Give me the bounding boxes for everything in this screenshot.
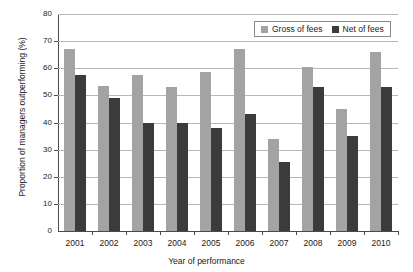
plot-area bbox=[58, 14, 398, 231]
bar-net-of-fees-2007 bbox=[279, 162, 290, 231]
chart-legend: Gross of feesNet of fees bbox=[254, 21, 391, 37]
y-axis-tick-label: 60 bbox=[30, 64, 52, 72]
legend-swatch-icon bbox=[332, 26, 339, 33]
y-axis-tick-label: 40 bbox=[30, 119, 52, 127]
x-axis-tick-mark bbox=[92, 231, 93, 235]
bar-net-of-fees-2010 bbox=[381, 87, 392, 231]
y-axis-tick-mark bbox=[54, 204, 58, 205]
y-axis-tick-label: 70 bbox=[30, 37, 52, 45]
x-axis-tick-mark bbox=[296, 231, 297, 235]
gridline bbox=[58, 95, 398, 96]
x-axis-tick-label: 2001 bbox=[58, 238, 92, 248]
x-axis-tick-mark bbox=[228, 231, 229, 235]
x-axis-tick-mark bbox=[160, 231, 161, 235]
x-axis-tick-mark bbox=[330, 231, 331, 235]
legend-entry: Net of fees bbox=[332, 25, 384, 34]
legend-label: Net of fees bbox=[343, 25, 384, 34]
legend-entry: Gross of fees bbox=[261, 25, 323, 34]
y-axis-tick-label: 50 bbox=[30, 91, 52, 99]
bar-gross-of-fees-2002 bbox=[98, 86, 109, 231]
y-axis-tick-label: 80 bbox=[30, 10, 52, 18]
gridline bbox=[58, 41, 398, 42]
legend-swatch-icon bbox=[261, 26, 268, 33]
bar-gross-of-fees-2004 bbox=[166, 87, 177, 231]
bar-gross-of-fees-2008 bbox=[302, 67, 313, 231]
x-axis-tick-label: 2003 bbox=[126, 238, 160, 248]
x-axis-tick-label: 2009 bbox=[330, 238, 364, 248]
bar-net-of-fees-2003 bbox=[143, 123, 154, 232]
x-axis-tick-mark bbox=[398, 231, 399, 235]
y-axis-tick-label: 20 bbox=[30, 173, 52, 181]
bar-gross-of-fees-2009 bbox=[336, 109, 347, 231]
x-axis-tick-label: 2007 bbox=[262, 238, 296, 248]
bar-net-of-fees-2005 bbox=[211, 128, 222, 231]
bar-net-of-fees-2002 bbox=[109, 98, 120, 231]
y-axis-tick-mark bbox=[54, 68, 58, 69]
y-axis-tick-mark bbox=[54, 177, 58, 178]
x-axis-tick-label: 2006 bbox=[228, 238, 262, 248]
x-axis-tick-label: 2008 bbox=[296, 238, 330, 248]
x-axis-tick-mark bbox=[262, 231, 263, 235]
bar-gross-of-fees-2003 bbox=[132, 75, 143, 231]
y-axis-tick-labels: 01020304050607080 bbox=[26, 0, 52, 272]
bar-gross-of-fees-2007 bbox=[268, 139, 279, 231]
bar-gross-of-fees-2005 bbox=[200, 72, 211, 231]
y-axis-tick-mark bbox=[54, 150, 58, 151]
bar-gross-of-fees-2006 bbox=[234, 49, 245, 231]
bar-net-of-fees-2001 bbox=[75, 75, 86, 231]
y-axis-tick-mark bbox=[54, 41, 58, 42]
y-axis-tick-label: 0 bbox=[30, 227, 52, 235]
y-axis-tick-label: 30 bbox=[30, 146, 52, 154]
y-axis-tick-mark bbox=[54, 123, 58, 124]
y-axis-title: Proportion of managers outperforming (%) bbox=[17, 22, 27, 212]
bar-net-of-fees-2008 bbox=[313, 87, 324, 231]
bar-chart: 01020304050607080 Proportion of managers… bbox=[0, 0, 413, 272]
x-axis-tick-label: 2002 bbox=[92, 238, 126, 248]
bar-net-of-fees-2009 bbox=[347, 136, 358, 231]
bar-gross-of-fees-2001 bbox=[64, 49, 75, 231]
y-axis-tick-mark bbox=[54, 95, 58, 96]
x-axis-tick-label: 2010 bbox=[364, 238, 398, 248]
x-axis-tick-mark bbox=[126, 231, 127, 235]
bar-net-of-fees-2004 bbox=[177, 123, 188, 232]
legend-label: Gross of fees bbox=[272, 25, 323, 34]
x-axis-tick-mark bbox=[194, 231, 195, 235]
x-axis-title: Year of performance bbox=[0, 256, 413, 266]
bar-gross-of-fees-2010 bbox=[370, 52, 381, 231]
x-axis-tick-label: 2004 bbox=[160, 238, 194, 248]
x-axis-tick-mark bbox=[364, 231, 365, 235]
gridline bbox=[58, 68, 398, 69]
gridline bbox=[58, 14, 398, 15]
bar-net-of-fees-2006 bbox=[245, 114, 256, 231]
x-axis-tick-label: 2005 bbox=[194, 238, 228, 248]
y-axis-tick-label: 10 bbox=[30, 200, 52, 208]
